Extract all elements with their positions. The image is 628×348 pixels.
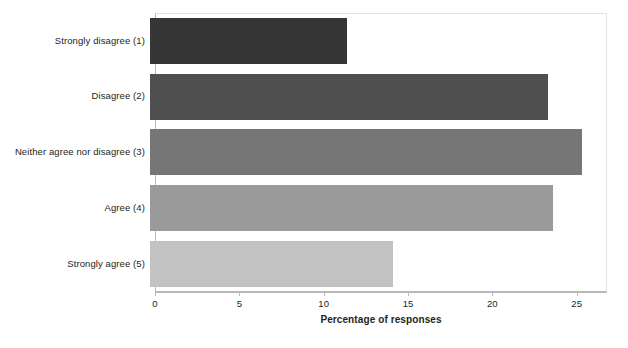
bar[interactable] [150, 74, 548, 120]
x-tick-label: 5 [237, 298, 242, 309]
x-tick-mark [324, 292, 325, 296]
x-axis-title: Percentage of responses [155, 314, 607, 325]
category-label: Disagree (2) [0, 91, 150, 101]
bar-row: Neither agree nor disagree (3) [0, 125, 628, 181]
x-tick-mark [239, 292, 240, 296]
category-label: Agree (4) [0, 203, 150, 213]
x-tick-label: 10 [318, 298, 329, 309]
x-tick-label: 0 [152, 298, 157, 309]
bar-track [150, 13, 628, 69]
bar-track [150, 236, 628, 292]
x-tick-mark [155, 292, 156, 296]
x-tick-mark [577, 292, 578, 296]
bar-row: Strongly agree (5) [0, 236, 628, 292]
bar-row: Disagree (2) [0, 69, 628, 125]
bar-track [150, 125, 628, 181]
bar[interactable] [150, 185, 553, 231]
bar-track [150, 180, 628, 236]
bar-chart: Strongly disagree (1)Disagree (2)Neither… [0, 0, 628, 348]
category-label: Neither agree nor disagree (3) [0, 147, 150, 157]
x-tick-label: 20 [487, 298, 498, 309]
x-tick-label: 25 [571, 298, 582, 309]
bar-row: Strongly disagree (1) [0, 13, 628, 69]
category-label: Strongly agree (5) [0, 259, 150, 269]
bar[interactable] [150, 18, 347, 64]
bar-rows: Strongly disagree (1)Disagree (2)Neither… [0, 13, 628, 292]
x-tick-mark [492, 292, 493, 296]
category-label: Strongly disagree (1) [0, 36, 150, 46]
bar-track [150, 69, 628, 125]
x-axis-line [155, 292, 607, 293]
x-tick-label: 15 [403, 298, 414, 309]
bar[interactable] [150, 241, 393, 287]
bar[interactable] [150, 129, 582, 175]
bar-row: Agree (4) [0, 180, 628, 236]
x-tick-mark [408, 292, 409, 296]
